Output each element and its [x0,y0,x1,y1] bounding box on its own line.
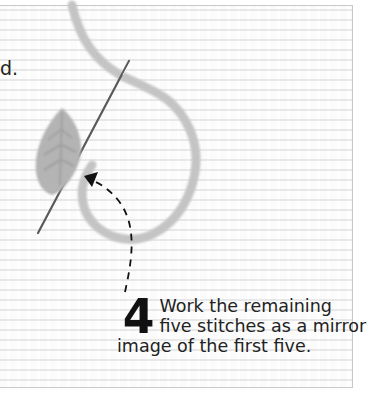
step-instruction: 4 Work the remaining five stitches as a … [122,296,352,356]
yarn-loop [72,5,196,239]
leaf-stitch-icon [36,108,81,195]
step-text-line-2: five stitches as a mirror [122,316,352,336]
step-number: 4 [123,297,155,335]
step-text-line-1: Work the remaining [122,296,352,316]
